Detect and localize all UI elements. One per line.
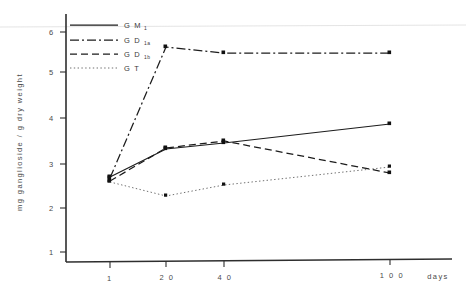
scan-artifact-line — [0, 25, 466, 27]
legend-label-gd1b: G D — [124, 50, 141, 59]
legend-label-gd1a: G D — [124, 36, 141, 45]
legend-label-gm1: G M — [124, 21, 142, 30]
legend-sub-gm1: 1 — [144, 25, 147, 31]
y-axis-ticks — [60, 32, 66, 252]
legend-sub-gd1a: 1a — [144, 40, 150, 46]
y-tick-label-3: 3 — [49, 160, 55, 169]
legend-sub-gd1b: 1b — [144, 54, 150, 60]
x-tick-label-40: 4 0 — [217, 273, 232, 282]
y-tick-label-1: 1 — [49, 248, 55, 257]
series-line-gt — [110, 167, 390, 196]
y-tick-label-2: 2 — [49, 204, 55, 213]
ganglioside-line-chart: 6 5 4 3 2 1 1 2 0 4 0 1 0 0 days mg gang… — [0, 0, 466, 290]
legend-item-gm1: G M 1 — [70, 21, 147, 31]
chart-figure: 6 5 4 3 2 1 1 2 0 4 0 1 0 0 days mg gang… — [0, 0, 466, 290]
y-axis-title: mg ganglioside / g dry weight — [15, 73, 24, 211]
x-tick-label-100: 1 0 0 — [380, 271, 405, 280]
series-line-gd1a — [110, 47, 390, 178]
y-tick-label-5: 5 — [49, 68, 55, 77]
series-markers-gd1a — [108, 45, 392, 180]
y-tick-label-4: 4 — [49, 114, 55, 123]
chart-legend: G M 1 G D 1a G D 1b G T — [70, 21, 150, 73]
legend-label-gt: G T — [124, 64, 140, 73]
legend-item-gd1a: G D 1a — [70, 36, 150, 46]
series-markers-gm1 — [108, 122, 392, 179]
legend-item-gd1b: G D 1b — [70, 50, 150, 60]
x-axis-line — [66, 259, 452, 262]
series-markers-gd1b — [108, 139, 392, 183]
series-markers-gt — [108, 165, 392, 197]
series-line-gm1 — [110, 124, 390, 177]
x-axis-title: days — [427, 272, 448, 281]
y-tick-label-6: 6 — [49, 28, 55, 37]
legend-item-gt: G T — [70, 64, 140, 73]
series-line-gd1b — [110, 141, 390, 181]
x-tick-label-1: 1 — [107, 274, 113, 283]
x-tick-label-20: 2 0 — [159, 273, 174, 282]
